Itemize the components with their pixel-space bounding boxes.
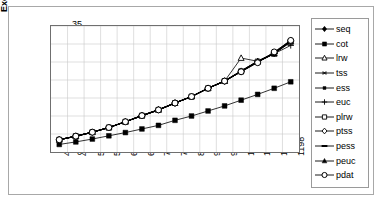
- legend-item-label: plrw: [335, 112, 353, 122]
- data-point-marker: [56, 137, 62, 143]
- filled-square-icon: [314, 38, 335, 50]
- data-point-marker: [255, 92, 260, 97]
- data-point-marker: [271, 49, 277, 55]
- series-lrw: [56, 38, 293, 143]
- legend-item-label: ptss: [335, 126, 353, 136]
- legend-item-label: lrw: [335, 53, 348, 63]
- data-point-marker: [140, 127, 145, 132]
- data-point-marker: [239, 98, 244, 103]
- asterisk-icon: [314, 67, 335, 79]
- hollow-triangle-icon: [314, 52, 335, 64]
- legend-item-plrw[interactable]: plrw: [314, 110, 366, 125]
- series-tss: [56, 40, 293, 142]
- data-point-marker: [272, 86, 277, 91]
- chart-legend: seqcotlrwtssesseucplrwptsspesspeucpdat: [311, 18, 369, 188]
- series-peuc: [56, 39, 293, 142]
- data-point-marker: [122, 119, 128, 125]
- plot-area: [50, 25, 300, 153]
- series-line: [59, 41, 290, 140]
- chart-container: Execution Times (secs) 05101520253035 40…: [0, 0, 385, 207]
- data-point-marker: [90, 137, 95, 142]
- data-point-marker: [255, 60, 261, 66]
- data-point-marker: [123, 130, 128, 135]
- dash-icon: [314, 140, 335, 152]
- data-point-marker: [155, 107, 161, 113]
- data-point-marker: [156, 123, 161, 128]
- legend-item-pess[interactable]: pess: [314, 139, 366, 154]
- data-point-marker: [323, 86, 326, 89]
- series-line: [59, 41, 290, 140]
- series-ptss: [56, 38, 293, 143]
- legend-item-label: tss: [335, 68, 348, 78]
- data-point-marker: [322, 173, 327, 178]
- series-line: [59, 42, 290, 140]
- series-line: [59, 41, 290, 140]
- series-line: [59, 41, 290, 139]
- data-point-marker: [205, 85, 211, 91]
- legend-item-label: pess: [335, 141, 355, 151]
- plot-svg: [51, 26, 299, 152]
- legend-item-seq[interactable]: seq: [314, 22, 366, 37]
- series-ess: [58, 39, 293, 141]
- series-pdat: [56, 37, 293, 142]
- series-plrw: [57, 39, 293, 142]
- data-point-marker: [288, 37, 294, 43]
- series-cot: [57, 79, 293, 146]
- series-line: [59, 42, 290, 140]
- legend-item-label: euc: [335, 97, 351, 107]
- data-point-marker: [106, 133, 111, 138]
- filled-diamond-icon: [314, 23, 335, 35]
- series-line: [59, 41, 290, 140]
- legend-item-cot[interactable]: cot: [314, 37, 366, 52]
- data-point-marker: [106, 125, 112, 131]
- legend-item-lrw[interactable]: lrw: [314, 51, 366, 66]
- filled-triangle-icon: [314, 155, 335, 167]
- data-point-marker: [322, 56, 327, 61]
- data-point-marker: [73, 133, 79, 139]
- small-filled-square-icon: [314, 82, 335, 94]
- legend-item-label: peuc: [335, 156, 356, 166]
- data-point-marker: [139, 113, 145, 119]
- data-point-marker: [189, 94, 195, 100]
- data-point-marker: [322, 27, 326, 32]
- data-point-marker: [238, 69, 244, 75]
- data-point-marker: [206, 109, 211, 114]
- data-point-marker: [89, 129, 95, 135]
- legend-item-pdat[interactable]: pdat: [314, 168, 366, 183]
- legend-item-label: ess: [335, 83, 350, 93]
- data-point-marker: [322, 129, 327, 135]
- data-point-marker: [238, 55, 244, 61]
- data-point-marker: [73, 140, 78, 145]
- legend-item-label: cot: [335, 39, 348, 49]
- legend-item-tss[interactable]: tss: [314, 66, 366, 81]
- legend-item-label: seq: [335, 24, 351, 34]
- y-axis-title: Execution Times (secs): [0, 0, 9, 26]
- data-point-marker: [322, 115, 326, 119]
- data-point-marker: [288, 79, 293, 84]
- data-point-marker: [172, 100, 178, 106]
- data-point-marker: [322, 42, 326, 46]
- hollow-square-icon: [314, 111, 335, 123]
- series-line: [59, 40, 290, 139]
- series-pess: [56, 41, 294, 140]
- data-point-marker: [222, 78, 228, 84]
- legend-item-label: pdat: [335, 170, 354, 180]
- plus-icon: [314, 96, 335, 108]
- hollow-circle-icon: [314, 169, 335, 181]
- series-line: [59, 40, 290, 139]
- hollow-diamond-icon: [314, 125, 335, 137]
- data-point-marker: [222, 104, 227, 109]
- data-point-marker: [189, 114, 194, 119]
- series-seq: [57, 37, 294, 143]
- legend-item-euc[interactable]: euc: [314, 95, 366, 110]
- legend-item-ess[interactable]: ess: [314, 80, 366, 95]
- legend-item-ptss[interactable]: ptss: [314, 124, 366, 139]
- data-point-marker: [173, 118, 178, 123]
- legend-item-peuc[interactable]: peuc: [314, 153, 366, 168]
